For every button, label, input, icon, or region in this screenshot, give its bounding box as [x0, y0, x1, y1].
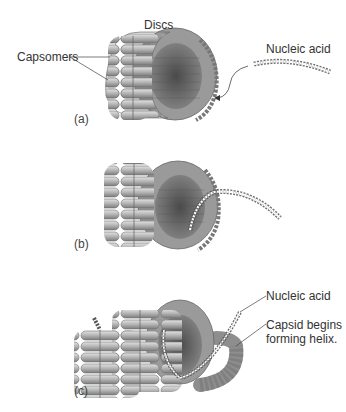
capsomers-label: Capsomers: [17, 50, 78, 64]
panel-c-helix-structure: [74, 300, 236, 398]
panel-a-nucleic-acid: [214, 61, 330, 101]
panel-a-disc-structure: [106, 28, 217, 120]
discs-label: Discs: [144, 18, 173, 32]
panel-label-c: (c): [74, 384, 88, 398]
nucleic-acid-label-a: Nucleic acid: [266, 42, 331, 56]
nucleic-acid-label-c: Nucleic acid: [266, 289, 331, 303]
panel-label-a: (a): [74, 112, 89, 126]
capsid-helix-label-line2: forming helix.: [266, 332, 337, 346]
panel-c-leader-lines: [236, 296, 266, 346]
panel-label-b: (b): [74, 237, 89, 251]
capsid-helix-label-line1: Capsid begins: [266, 318, 342, 332]
